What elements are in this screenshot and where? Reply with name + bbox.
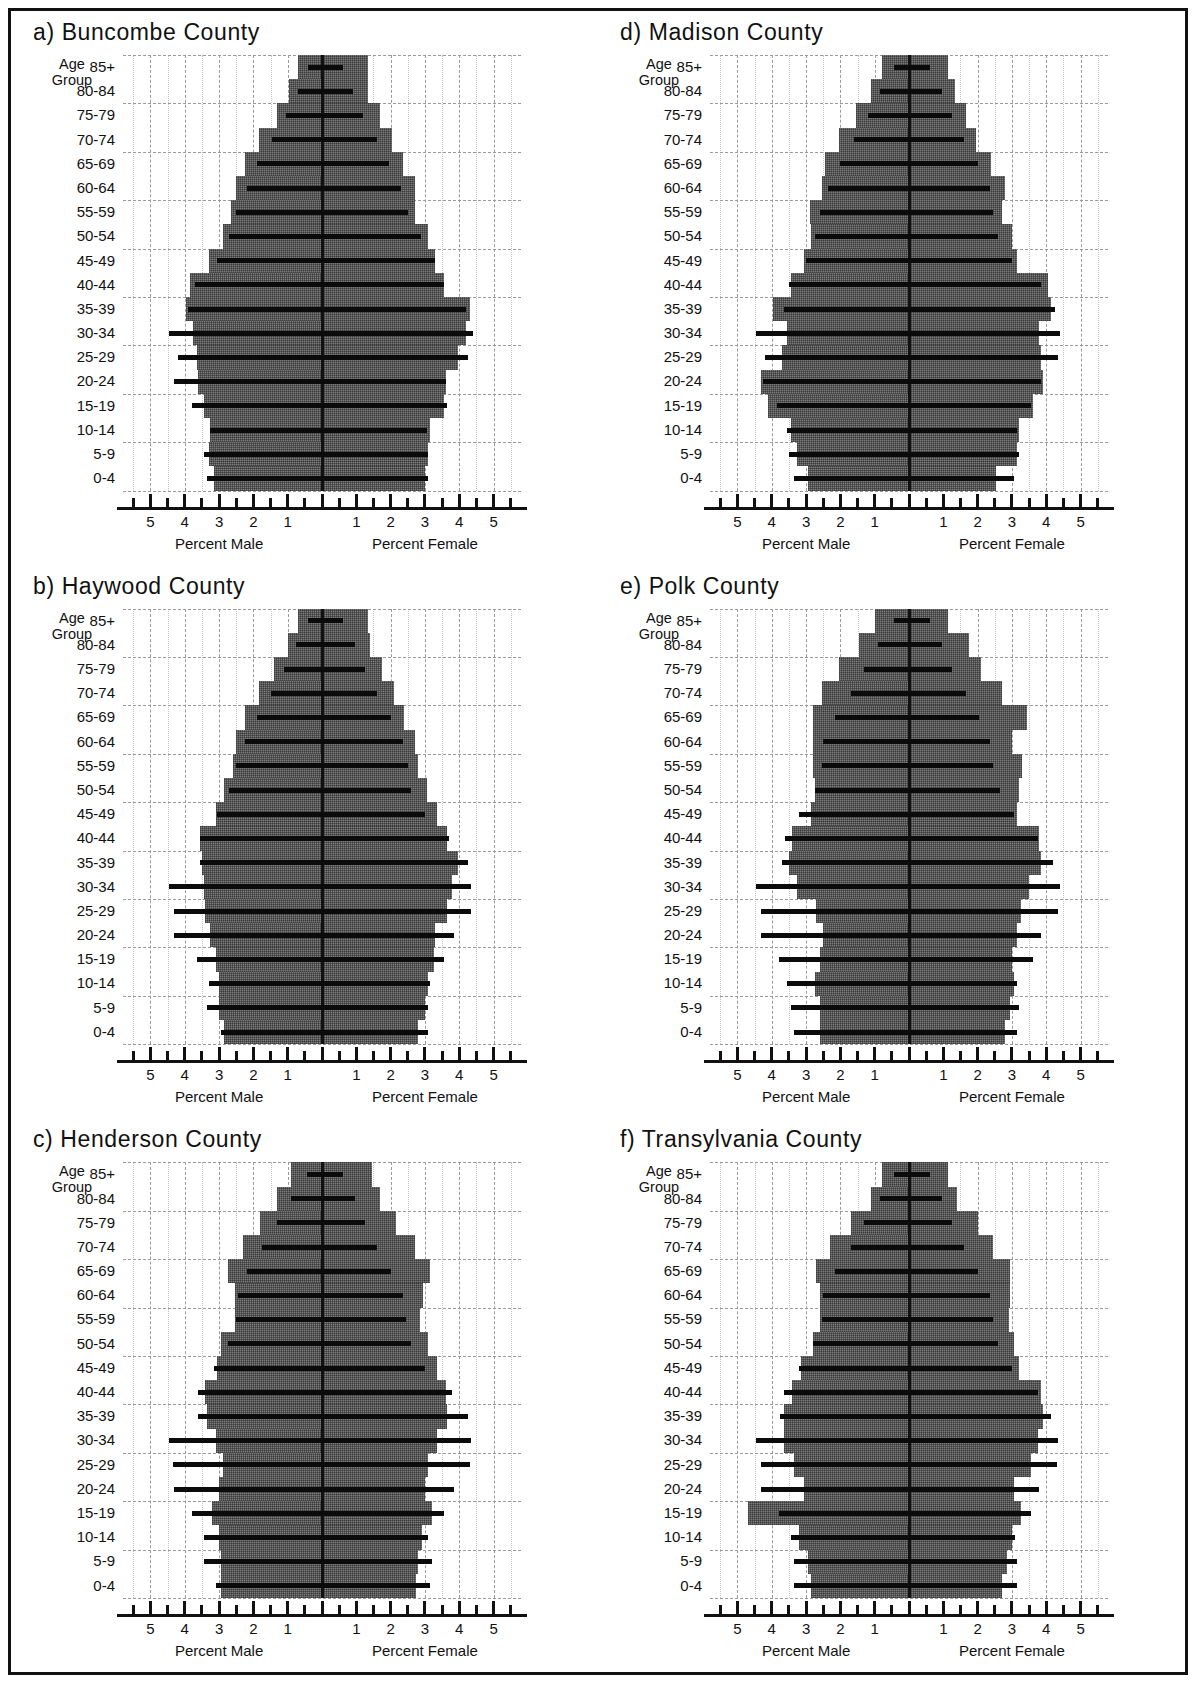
reference-bar	[221, 1030, 429, 1035]
x-axis-tick-minor	[235, 1051, 238, 1060]
reference-bar	[188, 307, 466, 312]
x-axis-tick-label: 4	[447, 1620, 471, 1637]
reference-bar	[247, 1269, 391, 1274]
age-tick-label: 75-79	[45, 1211, 115, 1235]
age-tick-label: 75-79	[45, 657, 115, 681]
reference-bar	[851, 1245, 964, 1250]
reference-bar	[197, 957, 444, 962]
reference-bar	[791, 1535, 1016, 1540]
x-axis-tick-label: 5	[1069, 1620, 1093, 1637]
reference-bar	[779, 957, 1033, 962]
x-axis-tick-major	[976, 1047, 979, 1060]
age-tick-label: 30-34	[632, 321, 702, 345]
age-tick-label: 30-34	[45, 1428, 115, 1452]
x-axis-tick-label: 1	[931, 513, 955, 530]
age-tick-label: 15-19	[632, 947, 702, 971]
panel-d: d) Madison CountyAgeGroup85+80-8475-7970…	[598, 11, 1185, 565]
x-axis-tick-label: 4	[447, 513, 471, 530]
x-axis-tick-major	[321, 1601, 324, 1614]
reference-bar	[835, 715, 979, 720]
x-axis-tick-major	[1045, 1047, 1048, 1060]
reference-bar	[756, 331, 1060, 336]
reference-bar	[238, 1293, 403, 1298]
age-tick-label: 65-69	[45, 1259, 115, 1283]
reference-bar	[307, 1172, 343, 1177]
age-tick-label: 50-54	[45, 1332, 115, 1356]
age-tick-label: 55-59	[45, 754, 115, 778]
age-tick-label: 20-24	[45, 1477, 115, 1501]
age-tick-label: 25-29	[632, 1453, 702, 1477]
reference-bar	[784, 1390, 1038, 1395]
panel-c: c) Henderson CountyAgeGroup85+80-8475-79…	[11, 1118, 598, 1672]
x-axis-tick-label: 3	[794, 1620, 818, 1637]
reference-bar	[200, 860, 468, 865]
x-axis-tick-label: 1	[276, 513, 300, 530]
reference-bar	[296, 642, 354, 647]
center-axis-line	[908, 1162, 911, 1598]
x-axis-tick-major	[252, 1601, 255, 1614]
age-tick-label: 55-59	[632, 1307, 702, 1331]
x-axis-tick-major	[770, 1047, 773, 1060]
age-tick-label: 25-29	[45, 1453, 115, 1477]
age-tick-label: 5-9	[45, 442, 115, 466]
x-axis-tick-major	[805, 494, 808, 507]
panel-title-b: b) Haywood County	[33, 573, 245, 600]
gridline-horizontal	[123, 1044, 521, 1045]
reference-bar	[204, 452, 429, 457]
reference-bar	[174, 909, 471, 914]
x-axis-tick-major	[458, 1601, 461, 1614]
x-axis-tick-label: 5	[482, 1620, 506, 1637]
x-axis-caption-female: Percent Female	[942, 1088, 1082, 1105]
reference-bar	[169, 884, 471, 889]
reference-bar	[820, 210, 993, 215]
x-axis-tick-minor	[509, 498, 512, 507]
reference-bar	[789, 282, 1041, 287]
reference-bar	[791, 1005, 1019, 1010]
panel-f: f) Transylvania CountyAgeGroup85+80-8475…	[598, 1118, 1185, 1672]
x-axis-tick-label: 1	[931, 1620, 955, 1637]
x-axis-tick-label: 4	[760, 1066, 784, 1083]
gridline-horizontal	[710, 1598, 1108, 1599]
x-axis-tick-minor	[1062, 1051, 1065, 1060]
x-axis-caption-male: Percent Male	[736, 535, 876, 552]
x-axis-tick-major	[942, 1047, 945, 1060]
x-axis-tick-minor	[925, 1605, 928, 1614]
x-axis-tick-label: 2	[379, 513, 403, 530]
x-axis-line	[704, 507, 1114, 510]
x-axis-tick-label: 4	[760, 1620, 784, 1637]
x-axis-tick-minor	[200, 1051, 203, 1060]
plot-inner	[710, 1162, 1108, 1598]
x-axis-tick-minor	[509, 1051, 512, 1060]
reference-bar	[207, 476, 428, 481]
reference-bar	[868, 113, 952, 118]
reference-bar	[257, 161, 389, 166]
age-tick-label: 10-14	[45, 1525, 115, 1549]
x-axis-tick-major	[389, 1047, 392, 1060]
reference-bar	[761, 909, 1058, 914]
x-axis-tick-minor	[166, 498, 169, 507]
x-axis-tick-major	[942, 494, 945, 507]
reference-bar	[169, 1438, 471, 1443]
reference-bar	[880, 89, 942, 94]
plot-inner	[123, 55, 521, 491]
age-tick-label: 80-84	[45, 79, 115, 103]
x-axis-caption-female: Percent Female	[355, 535, 495, 552]
gridline-horizontal	[123, 1598, 521, 1599]
age-tick-label: 85+	[45, 55, 115, 79]
x-axis-tick-major	[873, 1601, 876, 1614]
age-tick-label: 60-64	[45, 1283, 115, 1307]
age-tick-label: 35-39	[45, 851, 115, 875]
x-axis-tick-major	[1079, 1601, 1082, 1614]
x-axis-tick-label: 2	[966, 1620, 990, 1637]
reference-bar	[782, 860, 1053, 865]
x-axis-caption-female: Percent Female	[942, 535, 1082, 552]
center-axis-line	[321, 55, 324, 491]
age-tick-label: 20-24	[45, 923, 115, 947]
reference-bar	[192, 403, 448, 408]
reference-bar	[217, 812, 425, 817]
x-axis-tick-label: 5	[725, 1066, 749, 1083]
age-tick-label: 20-24	[632, 369, 702, 393]
x-axis-tick-major	[183, 1047, 186, 1060]
x-axis-tick-major	[873, 494, 876, 507]
age-tick-label: 0-4	[632, 466, 702, 490]
